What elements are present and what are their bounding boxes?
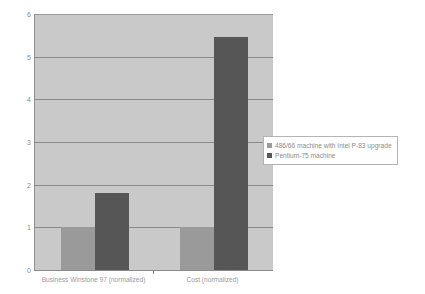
bar xyxy=(180,227,214,270)
bar-chart: r 0123456 Business Winstone 97 (normaliz… xyxy=(0,0,425,294)
gridline xyxy=(35,270,273,271)
y-axis-tick-label: 5 xyxy=(27,53,31,60)
y-axis-tick-label: 0 xyxy=(27,267,31,274)
legend-label: 486/66 machine with Intel P-83 upgrade xyxy=(275,142,392,150)
legend-swatch-icon xyxy=(267,143,272,148)
y-axis-tick-label: 2 xyxy=(27,181,31,188)
x-axis-tick-label: Business Winstone 97 (normalized) xyxy=(42,276,146,284)
y-axis-tick-label: 3 xyxy=(27,139,31,146)
y-axis-tick-label: 4 xyxy=(27,96,31,103)
bar xyxy=(95,193,129,270)
bars-layer xyxy=(35,14,273,270)
x-axis-tick-mark xyxy=(153,270,154,274)
plot-area: 0123456 xyxy=(34,14,273,271)
legend-label: Pentium-75 machine xyxy=(275,152,335,160)
legend-item: Pentium-75 machine xyxy=(267,151,392,160)
chart-legend: 486/66 machine with Intel P-83 upgrade P… xyxy=(263,136,398,165)
bar xyxy=(214,37,248,270)
y-axis-tick-label: 6 xyxy=(27,11,31,18)
x-axis-tick-label: Cost (normalized) xyxy=(186,276,238,284)
bar xyxy=(61,227,95,270)
y-axis-tick-label: 1 xyxy=(27,224,31,231)
legend-swatch-icon xyxy=(267,153,272,158)
legend-item: 486/66 machine with Intel P-83 upgrade xyxy=(267,141,392,150)
